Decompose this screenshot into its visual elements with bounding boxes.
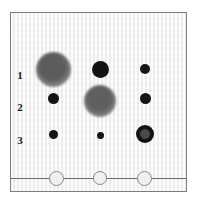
spot-r1-c1 (36, 52, 71, 87)
origin-circle-3 (137, 171, 152, 186)
row-label-2: 2 (14, 102, 26, 113)
origin-circle-1 (49, 171, 64, 186)
row-label-3: 3 (14, 135, 26, 146)
spot-r3-c2 (97, 132, 104, 139)
spot-r3-c3 (136, 125, 154, 143)
row-label-1: 1 (14, 70, 26, 81)
spot-r1-c2 (92, 61, 109, 78)
spot-r2-c3 (140, 93, 151, 104)
spot-r2-c2 (84, 85, 116, 117)
tlc-plate-frame: 1 2 3 (10, 12, 187, 192)
spot-r3-c1 (49, 130, 58, 139)
origin-circle-2 (93, 171, 107, 185)
spot-r2-c1 (48, 93, 59, 104)
spot-r1-c3 (140, 64, 150, 74)
figure-root: 1 2 3 (0, 0, 197, 203)
